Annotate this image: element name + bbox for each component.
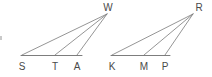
vertex-label-a: A [74, 61, 81, 72]
left-triangle-group: W S T A [19, 2, 114, 72]
vertex-label-m: M [140, 61, 148, 72]
vertex-label-r: R [195, 2, 202, 13]
segment-s-to-w [22, 14, 107, 55]
vertex-label-s: S [19, 61, 26, 72]
segment-k-to-r [112, 14, 193, 55]
vertex-label-p: P [162, 61, 169, 72]
right-triangle-group: R K M P [109, 2, 203, 72]
segment-t-to-w [55, 14, 107, 55]
geometry-figure: W S T A R K M P [0, 0, 212, 77]
scan-artifact-mark [0, 36, 2, 40]
vertex-label-k: K [109, 61, 116, 72]
vertex-label-w: W [103, 2, 113, 13]
segment-m-to-r [144, 14, 193, 55]
vertex-label-t: T [52, 61, 58, 72]
geometry-diagram-svg: W S T A R K M P [0, 0, 212, 77]
segment-p-to-r [165, 14, 193, 55]
